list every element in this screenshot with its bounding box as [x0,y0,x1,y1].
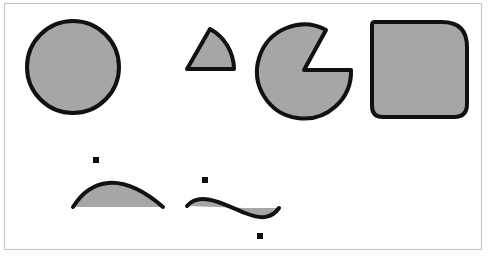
circle-shape [27,21,119,113]
shapes-canvas [0,0,488,260]
control-point-s-1-handle[interactable] [202,177,208,183]
curves-group [73,183,279,217]
shapes-group [27,21,467,119]
rounded-square-shape [372,22,467,117]
pacman-shape [257,25,351,119]
control-point-s-2-handle[interactable] [257,233,263,239]
control-point-hump-handle[interactable] [93,157,99,163]
pie-wedge-shape [187,29,234,69]
